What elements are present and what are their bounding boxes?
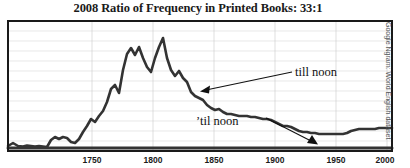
source-credit: Google Ngram: World English dataset — [383, 22, 393, 152]
xtick-1950: 1950 — [327, 155, 346, 165]
annotation-label-till-noon: till noon — [295, 65, 338, 79]
xtick-1850: 1850 — [205, 155, 224, 165]
annotation-label-til-noon: ’til noon — [196, 114, 239, 128]
xtick-1750: 1750 — [83, 155, 102, 165]
xtick-2000: 2000 — [376, 155, 395, 165]
xtick-1900: 1900 — [266, 155, 285, 165]
xtick-1800: 1800 — [144, 155, 163, 165]
x-axis-tick-labels: 1750 1800 1850 1900 1950 2000 — [83, 155, 395, 165]
ngram-frequency-chart: 2008 Ratio of Frequency in Printed Books… — [0, 0, 410, 168]
plot-area: till noon ’til noon 1750 1800 1850 1900 … — [0, 0, 410, 168]
plot-background — [8, 21, 392, 151]
